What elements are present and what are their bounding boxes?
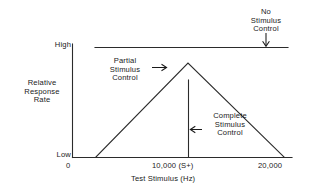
annotation-no-stimulus-line-3: Control	[237, 25, 295, 34]
y-tick-label-high: High	[55, 41, 71, 50]
generalization-gradient-figure: High Low Relative Response Rate 0 10,000…	[0, 0, 313, 192]
x-axis-title: Test Stimulus (Hz)	[131, 175, 195, 184]
y-tick-label-low: Low	[57, 151, 71, 160]
annotation-partial-stimulus-control: Partial Stimulus Control	[96, 57, 154, 83]
y-axis-title-line-3: Rate	[14, 96, 70, 105]
annotation-complete-stimulus-control: Complete Stimulus Control	[201, 112, 259, 138]
x-tick-label-10000: 10,000 (S+)	[152, 162, 194, 171]
x-tick-label-0: 0	[66, 162, 70, 171]
annotation-partial-stimulus-line-3: Control	[96, 74, 154, 83]
annotation-complete-stimulus-line-3: Control	[201, 129, 259, 138]
y-axis-title: Relative Response Rate	[14, 79, 70, 105]
annotation-no-stimulus-control: No Stimulus Control	[237, 8, 295, 34]
x-tick-label-20000: 20,000	[258, 162, 282, 171]
